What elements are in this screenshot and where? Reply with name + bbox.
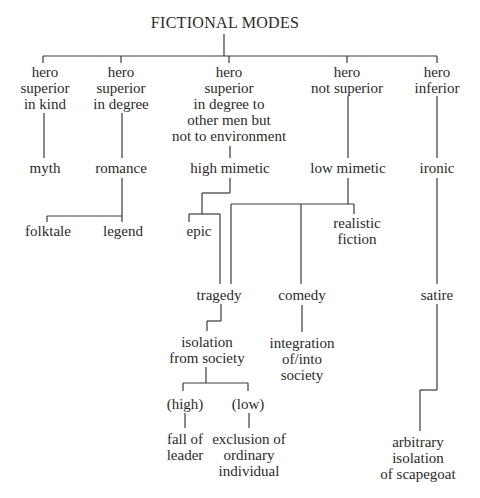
hero-label: superior <box>172 80 286 96</box>
theme-label: integration <box>270 335 335 351</box>
fictional-modes-diagram: FICTIONAL MODES hero superior in kind he… <box>0 0 480 498</box>
theme-label: isolation <box>380 450 455 466</box>
hero-label: other men but <box>172 112 286 128</box>
mode-low-mimetic: low mimetic <box>310 160 385 176</box>
hero-label: inferior <box>415 80 460 96</box>
subtype-label: realistic <box>333 215 380 231</box>
hero-superior-in-degree-to-men: hero superior in degree to other men but… <box>172 64 286 144</box>
theme-isolation-from-society: isolation from society <box>169 334 244 366</box>
theme-label: society <box>270 367 335 383</box>
genre-satire: satire <box>421 287 453 303</box>
hero-label: hero <box>311 64 383 80</box>
result-label: leader <box>167 447 204 463</box>
theme-label: isolation <box>169 334 244 350</box>
subtype-epic: epic <box>187 223 212 239</box>
result-fall-of-leader: fall of leader <box>167 431 204 463</box>
hero-superior-in-degree: hero superior in degree <box>93 64 148 112</box>
theme-label: of scapegoat <box>380 466 455 482</box>
result-label: ordinary <box>212 447 286 463</box>
hero-label: hero <box>172 64 286 80</box>
subtype-legend: legend <box>103 223 143 239</box>
branch-low: (low) <box>232 396 265 412</box>
mode-myth: myth <box>30 160 61 176</box>
hero-label: superior <box>20 80 69 96</box>
theme-arbitrary-isolation-of-scapegoat: arbitrary isolation of scapegoat <box>380 434 455 482</box>
genre-tragedy: tragedy <box>197 287 242 303</box>
theme-integration-into-society: integration of/into society <box>270 335 335 383</box>
hero-not-superior: hero not superior <box>311 64 383 96</box>
mode-romance: romance <box>95 160 147 176</box>
result-exclusion-of-ordinary-individual: exclusion of ordinary individual <box>212 431 286 479</box>
theme-label: from society <box>169 350 244 366</box>
result-label: individual <box>212 463 286 479</box>
subtype-label: fiction <box>333 231 380 247</box>
hero-label: not superior <box>311 80 383 96</box>
result-label: exclusion of <box>212 431 286 447</box>
subtype-folktale: folktale <box>25 223 71 239</box>
result-label: fall of <box>167 431 204 447</box>
theme-label: of/into <box>270 351 335 367</box>
diagram-title: FICTIONAL MODES <box>151 15 299 31</box>
hero-label: in degree <box>93 96 148 112</box>
mode-high-mimetic: high mimetic <box>190 160 270 176</box>
hero-label: in degree to <box>172 96 286 112</box>
genre-comedy: comedy <box>278 287 325 303</box>
subtype-realistic-fiction: realistic fiction <box>333 215 380 247</box>
hero-label: hero <box>415 64 460 80</box>
hero-label: in kind <box>20 96 69 112</box>
hero-label: hero <box>20 64 69 80</box>
hero-inferior: hero inferior <box>415 64 460 96</box>
hero-superior-in-kind: hero superior in kind <box>20 64 69 112</box>
theme-label: arbitrary <box>380 434 455 450</box>
mode-ironic: ironic <box>420 160 455 176</box>
branch-high: (high) <box>167 396 204 412</box>
hero-label: hero <box>93 64 148 80</box>
hero-label: not to environment <box>172 128 286 144</box>
hero-label: superior <box>93 80 148 96</box>
